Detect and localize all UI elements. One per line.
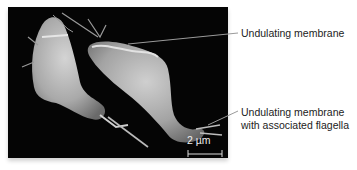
label-line: Undulating membrane bbox=[241, 27, 344, 40]
label-line: with associated flagella bbox=[241, 119, 349, 132]
label-undulating-membrane-flagella: Undulating membrane with associated flag… bbox=[241, 106, 349, 131]
label-undulating-membrane: Undulating membrane bbox=[241, 27, 344, 40]
scale-bar-label: 2 µm bbox=[187, 134, 211, 146]
label-line: Undulating membrane bbox=[241, 106, 349, 119]
